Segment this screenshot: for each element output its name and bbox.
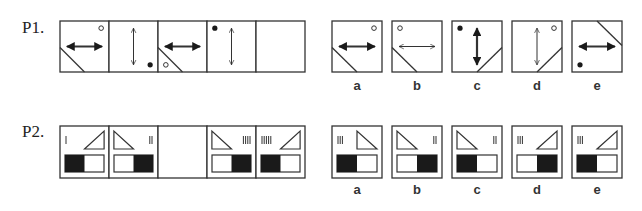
bar-filled-half	[537, 155, 557, 172]
sequence-cell	[207, 21, 256, 72]
bar-filled-half	[134, 155, 154, 172]
dot-open-icon	[552, 26, 557, 31]
option-label-c[interactable]: c	[452, 78, 502, 93]
bar-filled-half	[65, 155, 85, 172]
p2-sequence-strip	[60, 126, 305, 178]
option-label-d[interactable]: d	[512, 78, 562, 93]
sequence-cell	[256, 126, 305, 178]
puzzle-canvas	[0, 0, 642, 211]
option-label-b[interactable]: b	[392, 182, 442, 197]
bar-filled-half	[232, 155, 252, 172]
option-d[interactable]	[512, 126, 562, 178]
option-label-e[interactable]: e	[572, 182, 622, 197]
dot-filled-icon	[457, 26, 462, 31]
option-label-e[interactable]: e	[572, 78, 622, 93]
bar-filled-half	[577, 155, 597, 172]
option-c[interactable]	[452, 21, 502, 72]
option-b[interactable]	[392, 126, 442, 178]
option-e[interactable]	[572, 126, 622, 178]
p1-sequence-strip	[60, 21, 305, 72]
sequence-cell	[158, 21, 207, 72]
option-a[interactable]	[332, 21, 382, 72]
sequence-cell	[109, 126, 158, 178]
option-label-b[interactable]: b	[392, 78, 442, 93]
dot-open-icon	[164, 63, 169, 68]
sequence-cell-blank	[256, 21, 305, 72]
option-b[interactable]	[392, 21, 442, 72]
sequence-cell	[60, 21, 109, 72]
bar-filled-half	[261, 155, 281, 172]
dot-filled-icon	[577, 62, 582, 67]
option-e[interactable]	[572, 21, 622, 72]
option-label-c[interactable]: c	[452, 182, 502, 197]
option-label-a[interactable]: a	[332, 182, 382, 197]
sequence-cell	[207, 126, 256, 178]
option-a[interactable]	[332, 126, 382, 178]
option-c[interactable]	[452, 126, 502, 178]
dot-open-icon	[372, 26, 377, 31]
sequence-cell	[60, 126, 109, 178]
sequence-cell-blank	[158, 126, 207, 178]
bar-filled-half	[457, 155, 477, 172]
option-d[interactable]	[512, 21, 562, 72]
dot-filled-icon	[212, 26, 217, 31]
dot-open-icon	[99, 26, 104, 31]
option-label-d[interactable]: d	[512, 182, 562, 197]
bar-filled-half	[417, 155, 437, 172]
cell-frame	[158, 126, 207, 178]
dot-filled-icon	[148, 62, 153, 67]
option-label-a[interactable]: a	[332, 78, 382, 93]
sequence-cell	[109, 21, 158, 72]
dot-open-icon	[398, 26, 403, 31]
cell-frame	[256, 21, 305, 72]
bar-filled-half	[337, 155, 357, 172]
